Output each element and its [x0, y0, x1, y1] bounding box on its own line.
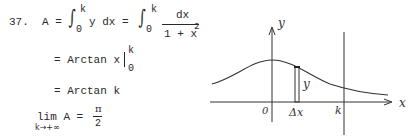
origin-label: 0: [262, 105, 269, 116]
curve: [212, 60, 388, 95]
k-label: k: [335, 104, 342, 117]
area-strip: [295, 67, 299, 102]
y-axis-label: y: [277, 16, 285, 30]
strip-height-label: y: [302, 77, 310, 91]
area-figure: y x 0 Δx y k: [0, 0, 417, 138]
x-axis-label: x: [399, 96, 406, 110]
delta-x-label: Δx: [288, 106, 304, 119]
